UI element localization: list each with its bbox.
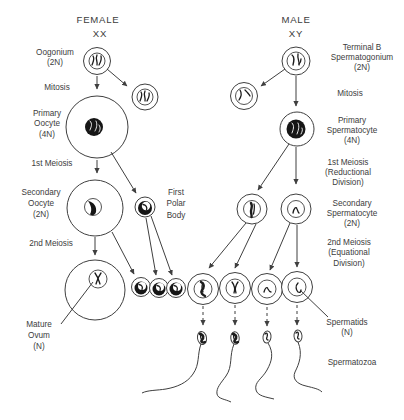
- spermatids-ploidy: (N): [341, 328, 353, 337]
- male-first-meiosis-label-3: Division): [332, 178, 364, 187]
- polar-body-3: [167, 279, 186, 298]
- mature-ovum-ploidy: (N): [33, 342, 45, 351]
- arrow-oogonium-mitosis-daughter: [107, 69, 127, 86]
- secondary-oocyte-ploidy: (2N): [33, 210, 49, 219]
- primary-spermatocyte-label-2: Spermatocyte: [327, 126, 378, 135]
- mature-ovum-label-1: Mature: [26, 320, 52, 329]
- arrow-secondary-left-to-spermatid-2: [235, 224, 256, 268]
- first-polar-body-cell: [135, 197, 155, 217]
- secondary-spermatocyte-left: [237, 194, 267, 224]
- polar-body-2: [150, 279, 169, 298]
- arrow-secondary-left-to-spermatid-1: [209, 223, 246, 268]
- secondary-oocyte-cell: [67, 180, 123, 236]
- male-second-meiosis-label-2: (Equational: [328, 248, 370, 257]
- mature-ovum-label-2: Ovum: [28, 331, 50, 340]
- secondary-oocyte-label-1: Secondary: [21, 188, 61, 197]
- secondary-oocyte-label-2: Oocyte: [28, 199, 54, 208]
- oogonium-ploidy: (2N): [47, 58, 63, 67]
- spermatids-label: Spermatids: [326, 318, 367, 327]
- male-first-meiosis-label-2: (Reductional: [325, 168, 371, 177]
- oogonium-cell: [84, 48, 111, 75]
- mature-ovum-cell: [65, 260, 125, 320]
- spermatozoa-label: Spermatozoa: [328, 358, 377, 367]
- oogonium-label: Oogonium: [36, 48, 74, 57]
- female-karyotype: XX: [93, 28, 107, 39]
- primary-spermatocyte-cell: [280, 112, 314, 146]
- spermatogonium-label-2: Spermatogonium: [331, 53, 394, 62]
- spermatid-2: [220, 273, 251, 304]
- female-column: FEMALE XX Oogonium (2N) Mitosis: [21, 14, 186, 351]
- arrow-primary-oocyte-to-polar-body: [111, 152, 136, 193]
- primary-oocyte-label-2: Oocyte: [34, 119, 60, 128]
- first-polar-body-label-3: Body: [167, 211, 187, 220]
- spermatid-1: [188, 274, 219, 305]
- female-first-meiosis-label: 1st Meiosis: [32, 159, 73, 168]
- female-heading: FEMALE: [77, 14, 120, 25]
- primary-oocyte-cell: [66, 96, 128, 158]
- primary-oocyte-ploidy: (4N): [39, 130, 55, 139]
- secondary-spermatocyte-right: [281, 194, 311, 224]
- female-mitosis-label: Mitosis: [44, 83, 69, 92]
- gametogenesis-diagram: FEMALE XX Oogonium (2N) Mitosis: [0, 0, 404, 420]
- spermatogonium-label-1: Terminal B: [343, 43, 382, 52]
- male-second-meiosis-label-3: Division): [333, 259, 365, 268]
- secondary-spermatocyte-ploidy: (2N): [344, 219, 360, 228]
- spermatozoon-3: [256, 331, 274, 399]
- male-first-meiosis-label-1: 1st Meiosis: [328, 158, 369, 167]
- spermatozoon-4: [294, 330, 322, 392]
- secondary-spermatocyte-label-1: Secondary: [332, 199, 372, 208]
- spermatids-pointer-line: [300, 290, 328, 317]
- male-mitosis-label: Mitosis: [337, 89, 362, 98]
- spermatid-3: [252, 274, 283, 305]
- primary-spermatocyte-label-1: Primary: [338, 116, 367, 125]
- primary-oocyte-label-1: Primary: [33, 109, 62, 118]
- polar-body-1: [132, 278, 151, 297]
- first-polar-body-label-2: Polar: [166, 199, 185, 208]
- first-polar-body-label-1: First: [168, 188, 185, 197]
- spermatogonium-ploidy: (2N): [354, 63, 370, 72]
- male-column: MALE XY Terminal B Spermatogonium (2N) M…: [142, 14, 393, 402]
- arrow-spermatogonium-mitosis-daughter: [261, 69, 285, 86]
- arrow-primary-to-secondary-left: [258, 144, 289, 190]
- secondary-spermatocyte-label-2: Spermatocyte: [327, 209, 378, 218]
- oogonium-daughter-cell: [132, 84, 158, 110]
- arrow-secondary-right-to-spermatid-3: [270, 223, 290, 270]
- male-karyotype: XY: [289, 28, 303, 39]
- spermatozoon-2: [217, 331, 240, 402]
- spermatozoon-1: [142, 331, 208, 393]
- spermatogonium-daughter-cell: [231, 83, 258, 110]
- male-second-meiosis-label-1: 2nd Meiosis: [327, 238, 371, 247]
- male-heading: MALE: [281, 14, 310, 25]
- spermatogonium-cell: [282, 47, 310, 75]
- diagram-canvas: FEMALE XX Oogonium (2N) Mitosis: [0, 0, 404, 420]
- primary-spermatocyte-ploidy: (4N): [344, 136, 360, 145]
- female-second-meiosis-label: 2nd Meiosis: [29, 239, 73, 248]
